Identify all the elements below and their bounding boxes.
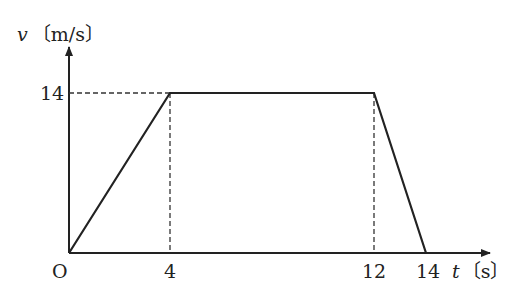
x-axis-label: t〔s〕 <box>452 260 509 282</box>
velocity-line <box>69 93 426 253</box>
tick-y-14: 14 <box>40 82 64 104</box>
velocity-time-graph: v〔m/s〕 14 O 4 12 14 t〔s〕 <box>0 0 526 300</box>
origin-label: O <box>52 260 68 282</box>
tick-x-14: 14 <box>416 260 440 282</box>
tick-x-12: 12 <box>362 260 386 282</box>
tick-x-4: 4 <box>164 260 176 282</box>
y-axis-label: v〔m/s〕 <box>17 23 104 45</box>
